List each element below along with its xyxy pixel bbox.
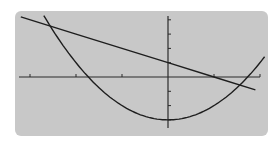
- graph-figure: [0, 0, 278, 144]
- graph-canvas: [0, 0, 278, 144]
